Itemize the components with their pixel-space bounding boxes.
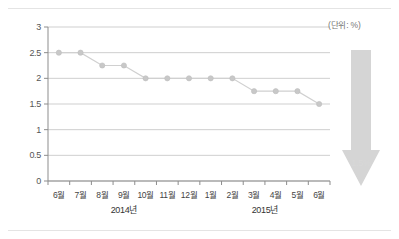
chart-figure: (단위: %) 00.511.522.53 6월7월8월9월10월11월12월1… [0, 0, 399, 239]
y-tick-label: 1.5 [15, 99, 41, 109]
plot-area [0, 0, 399, 239]
unit-note: (단위: %) [328, 18, 361, 30]
arrow-value-label: 1.5% [341, 158, 381, 168]
y-tick-marks [44, 27, 48, 181]
y-tick-label: 2 [15, 73, 41, 83]
y-tick-label: 3 [15, 22, 41, 32]
gridlines [48, 27, 330, 181]
y-tick-label: 2.5 [15, 48, 41, 58]
x-tick-marks [48, 181, 330, 185]
y-tick-label: 1 [15, 125, 41, 135]
y-tick-label: 0.5 [15, 150, 41, 160]
year-group-label: 2015년 [235, 203, 295, 216]
y-tick-label: 0 [15, 176, 41, 186]
x-tick-label: 6월 [306, 188, 332, 200]
year-group-label: 2014년 [94, 203, 154, 216]
